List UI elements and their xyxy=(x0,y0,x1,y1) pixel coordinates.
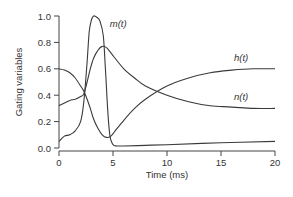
y-tick-label: 0.6 xyxy=(38,63,51,74)
series-ht-line xyxy=(59,69,275,138)
x-tick-label: 20 xyxy=(270,157,281,168)
y-tick-label: 0.2 xyxy=(38,116,51,127)
curve-label: m(t) xyxy=(110,18,127,29)
y-tick-label: 0.0 xyxy=(38,143,51,154)
curve-labels: m(t)h(t)n(t) xyxy=(110,18,248,103)
x-tick-label: 10 xyxy=(162,157,173,168)
axes xyxy=(59,16,275,151)
x-ticks: 05101520 xyxy=(56,151,280,168)
x-tick-label: 5 xyxy=(110,157,115,168)
y-tick-label: 0.8 xyxy=(38,37,51,48)
curve-label: n(t) xyxy=(234,91,248,102)
series-mt-line xyxy=(59,16,275,146)
curve-label: h(t) xyxy=(234,52,248,63)
x-tick-label: 0 xyxy=(56,157,61,168)
gating-variables-chart: 0.00.20.40.60.81.0 05101520 m(t)h(t)n(t)… xyxy=(0,0,293,197)
y-ticks: 0.00.20.40.60.81.0 xyxy=(38,11,59,154)
x-axis-label: Time (ms) xyxy=(146,169,188,180)
y-tick-label: 0.4 xyxy=(38,90,51,101)
y-tick-label: 1.0 xyxy=(38,11,51,22)
y-axis-label: Gating variables xyxy=(13,47,24,116)
series-lines xyxy=(59,16,275,146)
x-tick-label: 15 xyxy=(216,157,227,168)
